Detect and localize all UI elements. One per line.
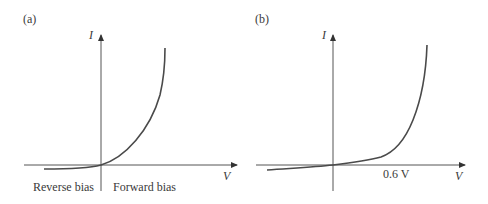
panel-b-axes	[256, 35, 465, 191]
knee-voltage-label: 0.6 V	[383, 167, 409, 182]
forward-bias-label: Forward bias	[113, 180, 176, 195]
diagram-canvas	[0, 0, 488, 204]
panel-b-iv-curve	[267, 45, 427, 170]
panel-a-x-axis-label: V	[223, 169, 230, 184]
panel-a-iv-curve	[44, 48, 165, 169]
reverse-bias-label: Reverse bias	[33, 180, 94, 195]
panel-a-y-axis-label: I	[89, 28, 93, 43]
panel-a-axes	[24, 35, 237, 191]
panel-b-label: (b)	[255, 12, 269, 27]
panel-b-x-axis-label: V	[455, 169, 462, 184]
panel-b-y-axis-label: I	[322, 28, 326, 43]
panel-a-label: (a)	[23, 12, 36, 27]
